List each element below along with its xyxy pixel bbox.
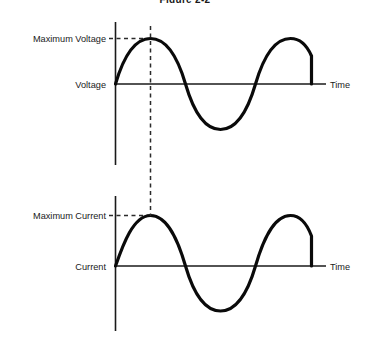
voltage-max-label: Maximum Voltage	[33, 34, 106, 44]
current-chart: Maximum Current Current Time	[33, 196, 350, 331]
current-axis-label: Current	[75, 262, 106, 272]
voltage-chart: Maximum Voltage Voltage Time	[33, 22, 350, 165]
voltage-time-label: Time	[330, 80, 350, 90]
voltage-axis-label: Voltage	[75, 80, 106, 90]
current-waveform-curve	[116, 216, 312, 312]
waveform-diagram: Maximum Voltage Voltage Time Maximum Cur…	[0, 0, 370, 348]
current-time-label: Time	[330, 262, 350, 272]
current-max-label: Maximum Current	[33, 211, 106, 221]
figure-container: Figure 2-2 Maximum Voltage Voltage Time	[0, 0, 370, 348]
